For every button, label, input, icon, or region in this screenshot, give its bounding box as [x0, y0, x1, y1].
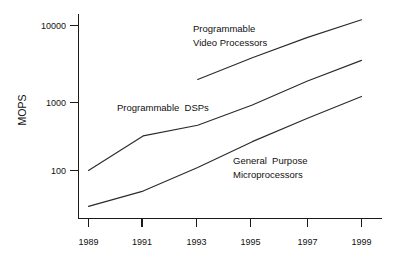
x-tick-label-1991: 1991 [132, 237, 152, 247]
x-tick-label-1999: 1999 [351, 237, 371, 247]
x-tick-label-1997: 1997 [297, 237, 317, 247]
x-tick-label-1989: 1989 [78, 237, 98, 247]
x-tick-label-1995: 1995 [240, 237, 260, 247]
chart-plot-area: 10000 1000 100 MOPS 1989 1991 1993 1995 … [0, 0, 393, 261]
series-annotation-programmable-dsps: Programmable DSPs [117, 102, 209, 113]
series-annotation-video-processors-line2: Video Processors [193, 37, 268, 48]
y-tick-label-100: 100 [51, 166, 66, 176]
y-tick-label-1000: 1000 [46, 98, 66, 108]
chart-container: 10000 1000 100 MOPS 1989 1991 1993 1995 … [0, 0, 393, 261]
series-annotation-general-purpose-line1: General Purpose [233, 155, 307, 166]
x-tick-label-1993: 1993 [186, 237, 206, 247]
y-axis-title: MOPS [16, 95, 28, 126]
series-annotation-video-processors-line1: Programmable [193, 23, 255, 34]
y-tick-label-10000: 10000 [41, 21, 66, 31]
series-annotation-general-purpose-line2: Microprocessors [233, 169, 303, 180]
